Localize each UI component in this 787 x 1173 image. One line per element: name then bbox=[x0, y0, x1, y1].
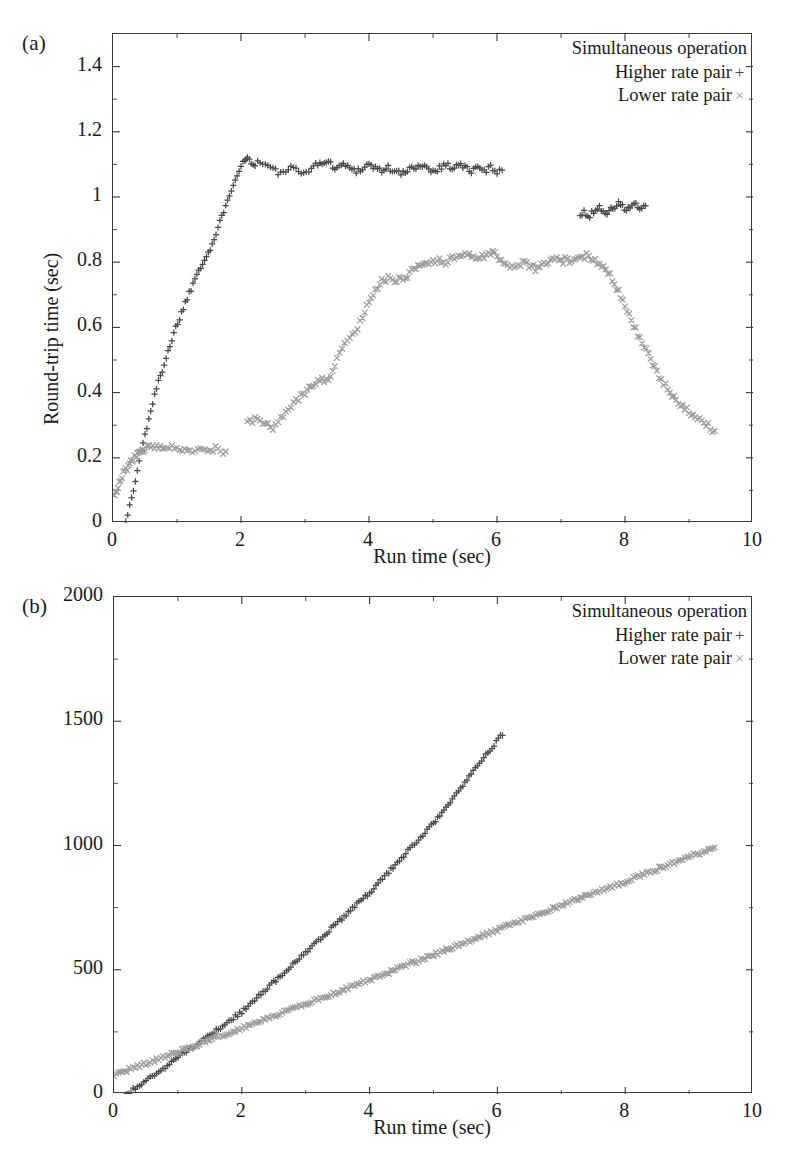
legend-item-lower-rate: Lower rate pair× bbox=[447, 647, 747, 671]
x-tick-label: 0 bbox=[83, 1099, 143, 1122]
y-tick-label: 1500 bbox=[37, 707, 103, 730]
data-marker-trail bbox=[113, 442, 228, 498]
y-tick-label: 1 bbox=[36, 183, 102, 206]
x-tick-label: 4 bbox=[338, 528, 398, 551]
legend-title-text: Simultaneous operation bbox=[572, 601, 747, 621]
series-higher-rate-pair bbox=[124, 732, 506, 1094]
x-tick-label: 8 bbox=[594, 528, 654, 551]
legend-title: Simultaneous operation bbox=[447, 600, 747, 624]
legend-item-higher-rate: Higher rate pair+ bbox=[447, 61, 747, 85]
x-tick-label: 2 bbox=[211, 1099, 271, 1122]
y-tick-label: 500 bbox=[37, 956, 103, 979]
y-tick-label: 0.6 bbox=[36, 313, 102, 336]
legend-lower-label: Lower rate pair bbox=[618, 648, 732, 668]
legend-title: Simultaneous operation bbox=[447, 37, 747, 61]
panel-a-letter: (a) bbox=[22, 33, 46, 54]
panel-a-legend: Simultaneous operation Higher rate pair+… bbox=[447, 37, 747, 108]
panel-a: (a) Round-trip time (sec) Simultaneous o… bbox=[0, 0, 787, 586]
panel-b-data-layer bbox=[114, 597, 753, 1094]
x-tick-label: 6 bbox=[466, 528, 526, 551]
y-tick-label: 0.2 bbox=[36, 444, 102, 467]
legend-higher-label: Higher rate pair bbox=[615, 625, 732, 645]
x-tick-label: 10 bbox=[722, 1099, 782, 1122]
legend-title-text: Simultaneous operation bbox=[572, 38, 747, 58]
panel-b-legend: Simultaneous operation Higher rate pair+… bbox=[447, 600, 747, 671]
x-tick-label: 4 bbox=[339, 1099, 399, 1122]
series-lower-rate-pair bbox=[114, 845, 718, 1079]
y-tick-label: 1.2 bbox=[36, 118, 102, 141]
panel-b: (b) Sequence numbers Simultaneous operat… bbox=[0, 563, 787, 1173]
x-tick-label: 0 bbox=[82, 528, 142, 551]
cross-marker-icon: × bbox=[732, 85, 747, 107]
y-tick-label: 1.4 bbox=[36, 53, 102, 76]
cross-marker-icon: × bbox=[732, 648, 747, 670]
y-tick-label: 0.4 bbox=[36, 379, 102, 402]
x-tick-label: 8 bbox=[594, 1099, 654, 1122]
y-tick-label: 2000 bbox=[37, 583, 103, 606]
plus-marker-icon: + bbox=[732, 62, 747, 84]
legend-higher-label: Higher rate pair bbox=[615, 62, 732, 82]
data-marker-trail bbox=[123, 154, 506, 523]
y-tick-label: 0.8 bbox=[36, 248, 102, 271]
data-marker-trail bbox=[577, 199, 648, 221]
x-tick-label: 10 bbox=[722, 528, 782, 551]
series-lower-rate-pair bbox=[113, 248, 717, 498]
plus-marker-icon: + bbox=[732, 625, 747, 647]
x-tick-label: 2 bbox=[210, 528, 270, 551]
data-marker-trail bbox=[114, 845, 718, 1079]
series-higher-rate-pair bbox=[123, 154, 649, 523]
data-marker-trail bbox=[245, 248, 718, 434]
data-marker-trail bbox=[124, 732, 506, 1094]
legend-item-lower-rate: Lower rate pair× bbox=[447, 84, 747, 108]
legend-lower-label: Lower rate pair bbox=[618, 85, 732, 105]
figure-container: (a) Round-trip time (sec) Simultaneous o… bbox=[0, 0, 787, 1173]
legend-item-higher-rate: Higher rate pair+ bbox=[447, 624, 747, 648]
x-tick-label: 6 bbox=[466, 1099, 526, 1122]
y-tick-label: 1000 bbox=[37, 832, 103, 855]
